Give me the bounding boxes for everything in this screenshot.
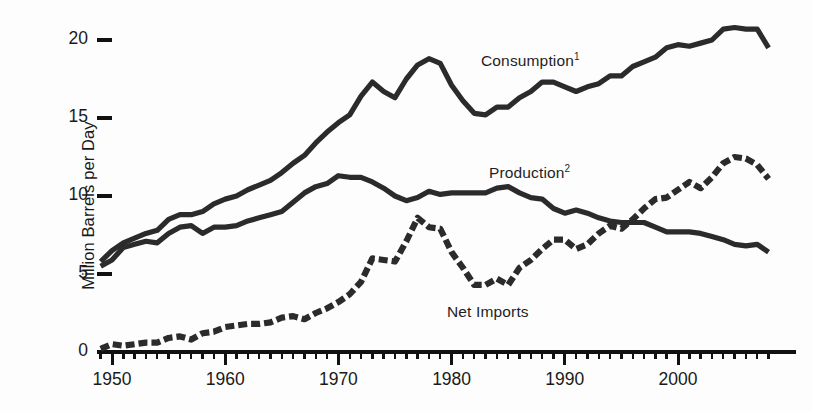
- x-tick-label: 1950: [72, 369, 152, 390]
- y-tick-label: 10: [44, 184, 88, 205]
- series-label-production: Production2: [489, 164, 570, 182]
- x-tick-label: 2000: [638, 369, 718, 390]
- y-tick-label: 15: [44, 106, 88, 127]
- series-label-net-imports: Net Imports: [447, 303, 529, 321]
- x-tick-label: 1990: [525, 369, 605, 390]
- y-axis-title: Million Barrels per Day: [79, 56, 98, 356]
- x-tick-label: 1970: [298, 369, 378, 390]
- series-label-consumption-superscript: 1: [574, 51, 580, 62]
- series-label-production-text: Production: [489, 164, 565, 181]
- series-label-net-imports-text: Net Imports: [447, 303, 529, 320]
- data-series-group: [101, 28, 769, 349]
- series-label-consumption-text: Consumption: [481, 52, 574, 69]
- x-tick-label: 1960: [185, 369, 265, 390]
- x-tick-label: 1980: [412, 369, 492, 390]
- series-label-consumption: Consumption1: [481, 52, 580, 70]
- series-label-production-superscript: 2: [565, 163, 571, 174]
- series-line-production: [101, 176, 769, 266]
- chart-plot-area: [0, 0, 813, 412]
- series-line-net-imports: [101, 157, 769, 349]
- y-tick-label: 5: [44, 262, 88, 283]
- y-tick-label: 20: [44, 28, 88, 49]
- y-tick-label: 0: [44, 340, 88, 361]
- chart-figure: Million Barrels per Day 05101520 1950196…: [0, 0, 813, 412]
